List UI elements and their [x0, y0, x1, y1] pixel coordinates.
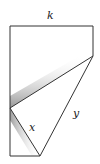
fold-shadow [10, 48, 93, 108]
label-k: k [47, 9, 54, 22]
label-x: x [29, 121, 36, 134]
segment-x [10, 108, 40, 156]
folded-paper-diagram: k x y [0, 0, 100, 164]
label-y: y [72, 107, 80, 120]
fold-crease-line [10, 56, 93, 108]
